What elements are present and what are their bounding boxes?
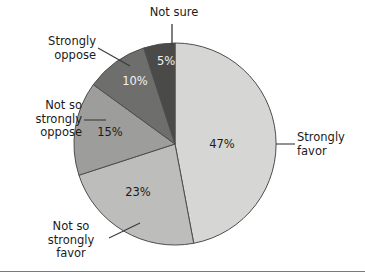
callout-not-so-strongly-oppose-line3: oppose bbox=[6, 126, 82, 140]
pie-chart-figure: 47% 23% 15% 10% 5% Not sure Strongly opp… bbox=[0, 0, 365, 277]
callout-not-so-strongly-favor-line3: favor bbox=[34, 247, 108, 261]
callout-not-so-strongly-favor-line1: Not so bbox=[34, 220, 108, 234]
callout-strongly-oppose-line1: Strongly bbox=[24, 35, 96, 49]
callout-not-so-strongly-favor-line2: strongly bbox=[34, 234, 108, 248]
callout-strongly-favor-line1: Strongly bbox=[297, 131, 363, 145]
callout-not-sure-line1: Not sure bbox=[139, 6, 209, 20]
callout-not-sure: Not sure bbox=[139, 6, 209, 20]
slice-value-not-so-strongly-oppose: 15% bbox=[97, 125, 123, 139]
callout-strongly-favor-line2: favor bbox=[297, 145, 363, 159]
slice-value-strongly-favor: 47% bbox=[209, 137, 235, 151]
slice-value-strongly-oppose: 10% bbox=[122, 74, 148, 88]
slice-value-not-so-strongly-favor: 23% bbox=[125, 185, 151, 199]
callout-strongly-oppose: Strongly oppose bbox=[24, 35, 96, 62]
callout-not-so-strongly-favor: Not so strongly favor bbox=[34, 220, 108, 261]
figure-bottom-rule bbox=[0, 271, 365, 272]
callout-strongly-favor: Strongly favor bbox=[297, 131, 363, 158]
callout-strongly-oppose-line2: oppose bbox=[24, 49, 96, 63]
callout-not-so-strongly-oppose: Not so strongly oppose bbox=[6, 99, 82, 140]
callout-not-so-strongly-oppose-line2: strongly bbox=[6, 113, 82, 127]
callout-not-so-strongly-oppose-line1: Not so bbox=[6, 99, 82, 113]
slice-value-not-sure: 5% bbox=[157, 54, 175, 68]
